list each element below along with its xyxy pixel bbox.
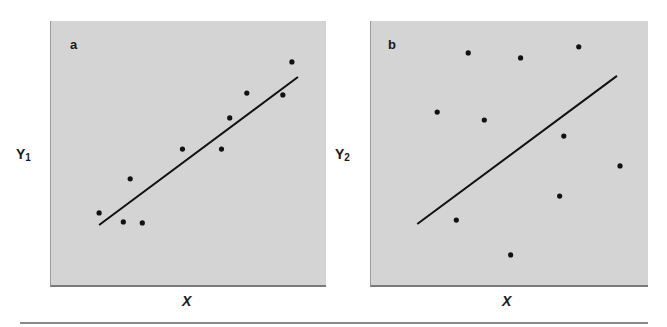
y-axis-label-a-sub: 1 xyxy=(25,152,31,163)
scatter-panel-a: a xyxy=(50,21,326,287)
data-point xyxy=(557,193,562,198)
data-point xyxy=(289,59,294,64)
data-point xyxy=(454,217,459,222)
data-point xyxy=(227,115,232,120)
plot-area-a xyxy=(51,21,327,287)
data-point xyxy=(482,117,487,122)
scatter-panel-b: b xyxy=(370,21,648,287)
data-point xyxy=(97,210,102,215)
data-point xyxy=(576,44,581,49)
data-point xyxy=(508,252,513,257)
data-point xyxy=(121,219,126,224)
data-point xyxy=(140,220,145,225)
regression-line xyxy=(99,77,298,225)
data-point xyxy=(280,92,285,97)
data-point xyxy=(219,146,224,151)
data-point xyxy=(561,134,566,139)
regression-line xyxy=(417,76,617,224)
data-point xyxy=(435,109,440,114)
data-point xyxy=(617,163,622,168)
data-point xyxy=(180,146,185,151)
y-axis-label-a: Y1 xyxy=(16,146,31,163)
data-point xyxy=(466,50,471,55)
y-axis-label-b-main: Y xyxy=(335,146,344,162)
bottom-divider xyxy=(20,322,648,324)
data-point xyxy=(244,90,249,95)
plot-area-b xyxy=(371,21,649,287)
x-axis-label-a: X xyxy=(182,293,191,309)
y-axis-label-a-main: Y xyxy=(16,146,25,162)
data-point xyxy=(518,55,523,60)
data-point xyxy=(128,176,133,181)
x-axis-label-b: X xyxy=(502,293,511,309)
y-axis-label-b-sub: 2 xyxy=(344,152,350,163)
y-axis-label-b: Y2 xyxy=(335,146,350,163)
